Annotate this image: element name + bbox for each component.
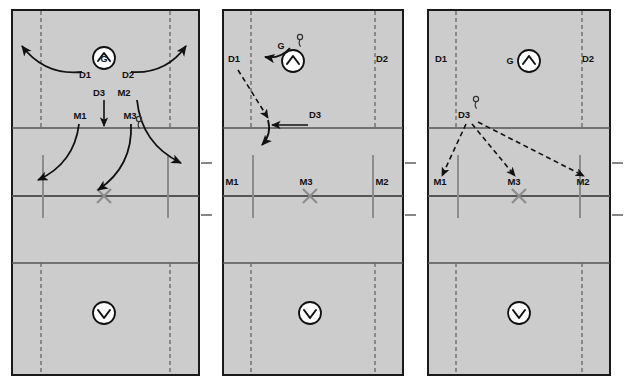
player-label-d1: D1 [79,69,92,80]
goalie-label: G [100,54,107,64]
player-label-m2: M2 [375,176,388,187]
goalie-label: G [277,41,284,51]
player-label-m2: M2 [117,87,130,98]
chevron-up-circle-icon [518,50,540,72]
player-label-m3: M3 [123,110,136,121]
phase-2-goalie-clears-to-d3: GD1D2D3M1M3M2 [222,9,404,376]
player-label-m1: M1 [433,176,447,187]
player-label-d3: D3 [93,87,105,98]
chevron-down-circle-icon [93,302,115,324]
panel-canvas: GD1D2D3M1M3M2 [222,9,418,376]
player-label-d1: D1 [435,53,448,64]
player-label-d2: D2 [582,53,594,64]
phase-3-d3-distributes-to-midfield: GD1D2D3M1M3M2 [427,9,611,376]
player-label-m2: M2 [576,176,589,187]
player-label-d3: D3 [309,109,321,120]
player-label-d2: D2 [122,69,134,80]
panel-canvas: GD1D2D3M1M3M2 [427,9,625,376]
goalie-label: G [506,56,513,66]
chevron-down-circle-icon [299,302,321,324]
player-label-m1: M1 [225,176,239,187]
player-label-d2: D2 [376,53,388,64]
player-label-m3: M3 [507,176,520,187]
phase-1-initial-spread: GD1D2D3M2M1M3 [11,9,200,376]
player-label-d1: D1 [228,53,241,64]
chevron-down-circle-icon [508,302,530,324]
player-label-d3: D3 [458,109,470,120]
panel-canvas: GD1D2D3M2M1M3 [11,9,214,376]
player-label-m1: M1 [73,110,87,121]
chevron-up-circle-icon [282,50,304,72]
player-label-m3: M3 [299,176,312,187]
